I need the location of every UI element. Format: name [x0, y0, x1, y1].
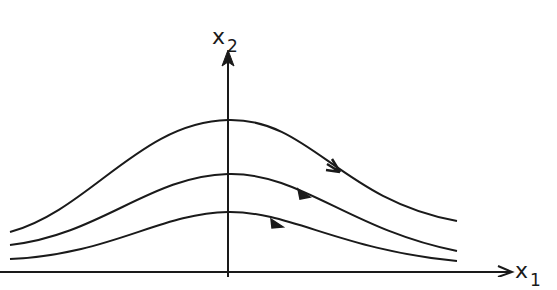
y-axis-label: x2 [212, 24, 236, 49]
trajectory-inner [10, 212, 457, 261]
trajectory-outer [10, 120, 457, 232]
x-axis-label-sub: 1 [530, 270, 541, 290]
x-axis-label-main: x [515, 258, 528, 283]
x-axis-label: x1 [515, 258, 539, 283]
y-axis-label-main: x [212, 24, 225, 49]
y-axis-label-sub: 2 [227, 36, 238, 56]
